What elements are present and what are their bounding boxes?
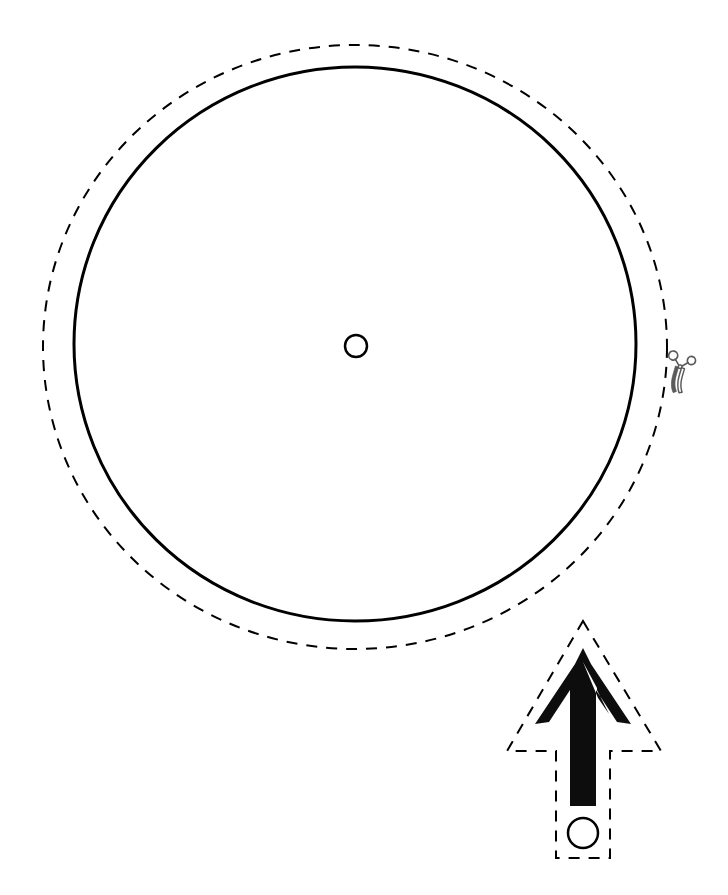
spinner-template-page: Blank Spinner Template bbox=[0, 0, 728, 895]
spinner-template-canvas bbox=[0, 0, 728, 895]
page-background bbox=[0, 0, 728, 895]
